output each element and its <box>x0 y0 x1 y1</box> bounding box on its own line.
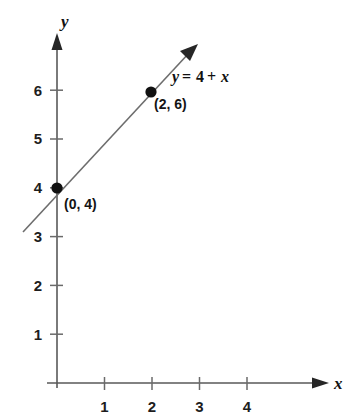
y-tick-label-4: 4 <box>34 179 43 196</box>
x-tick-label-1: 1 <box>100 398 108 415</box>
graph-figure: y 1 2 3 4 5 6 x <box>0 0 350 420</box>
equation-relation: = <box>182 68 191 85</box>
x-axis-arrowhead <box>312 378 329 389</box>
equation-lhs: y <box>170 68 180 86</box>
point-label-0-4: (0, 4) <box>64 196 97 212</box>
x-tick-label-2: 2 <box>148 398 156 415</box>
equation-annotation: y = 4 + x <box>170 68 229 86</box>
x-tick-label-4: 4 <box>243 398 252 415</box>
y-axis-arrowhead <box>52 33 63 50</box>
equation-variable: x <box>220 68 229 85</box>
coordinate-plot: y 1 2 3 4 5 6 x <box>0 0 350 420</box>
equation-constant: 4 <box>196 68 204 85</box>
data-points-group <box>51 86 156 193</box>
x-tick-labels: 1 2 3 4 <box>100 398 252 415</box>
y-axis-label: y <box>59 12 69 31</box>
point-labels-group: (0, 4) (2, 6) <box>64 96 187 212</box>
line-y-equals-4-plus-x <box>23 53 189 232</box>
equation-operator: + <box>207 68 216 85</box>
line-arrowhead <box>180 44 198 61</box>
y-tick-label-2: 2 <box>34 277 42 294</box>
y-tick-label-6: 6 <box>34 82 42 99</box>
x-axis-label: x <box>333 374 343 393</box>
x-tick-label-3: 3 <box>195 398 203 415</box>
y-tick-label-3: 3 <box>34 228 42 245</box>
x-axis-group: x <box>47 374 343 393</box>
y-tick-label-5: 5 <box>34 130 42 147</box>
y-tick-label-1: 1 <box>34 326 42 343</box>
data-point-0-4 <box>51 182 62 193</box>
point-label-2-6: (2, 6) <box>154 96 187 112</box>
